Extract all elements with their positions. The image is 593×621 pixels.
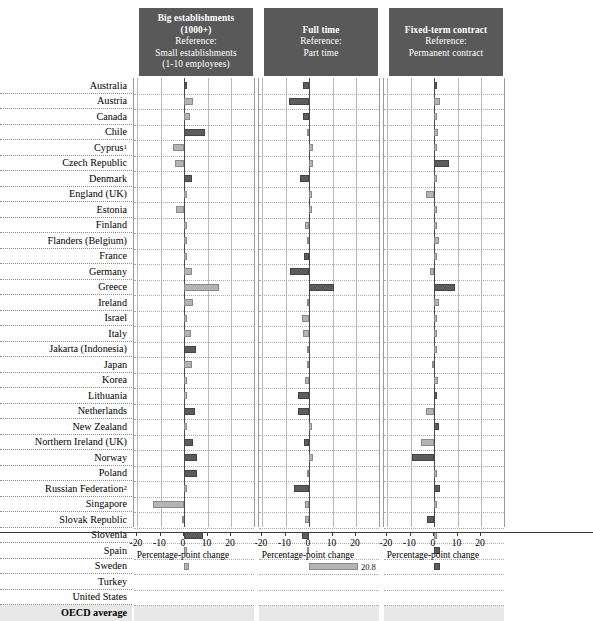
bar: [184, 392, 187, 399]
axis-tick: [136, 532, 137, 536]
row-separator: [134, 497, 254, 498]
oecd-average-band: [384, 605, 504, 621]
row-separator: [134, 202, 254, 203]
category-label: Cyprus1: [0, 140, 132, 156]
row-separator: [259, 156, 379, 157]
row-separator: [259, 264, 379, 265]
bar: [184, 268, 192, 275]
category-label: Czech Republic: [0, 156, 132, 172]
row-separator: [384, 528, 504, 529]
axis-tick: [457, 532, 458, 536]
panel-big-establishments: [133, 78, 255, 527]
bar: [434, 206, 437, 213]
row-separator: [259, 435, 379, 436]
bar: [434, 175, 437, 182]
bar: [434, 470, 437, 477]
row-separator: [384, 249, 504, 250]
bar-value-label: 20.8: [361, 562, 376, 572]
row-separator: [259, 295, 379, 296]
category-label: Jakarta (Indonesia): [0, 342, 132, 358]
bar: [309, 191, 312, 198]
row-separator: [134, 419, 254, 420]
bar: [294, 485, 309, 492]
row-separator: [259, 171, 379, 172]
bar: [434, 299, 439, 306]
axis-tick: [207, 532, 208, 536]
category-label: Slovenia: [0, 528, 132, 544]
bar: [184, 175, 192, 182]
bar: [305, 377, 309, 384]
row-separator: [134, 109, 254, 110]
bar: [307, 299, 310, 306]
panel-header-line: (1-10 employees): [162, 59, 229, 70]
bar: [434, 82, 437, 89]
row-separator: [259, 605, 379, 606]
axis-tick: [285, 532, 286, 536]
row-separator: [384, 342, 504, 343]
bar: [309, 284, 334, 291]
row-separator: [134, 466, 254, 467]
category-label: Flanders (Belgium): [0, 233, 132, 249]
category-label: Singapore: [0, 497, 132, 513]
row-separator: [134, 125, 254, 126]
bar: [184, 485, 187, 492]
category-label: England (UK): [0, 187, 132, 203]
row-separator: [259, 481, 379, 482]
bar: [434, 346, 437, 353]
row-separator: [259, 326, 379, 327]
bar: [430, 268, 434, 275]
bar: [434, 253, 437, 260]
bar: [184, 423, 187, 430]
row-separator: [259, 450, 379, 451]
panel-header-line: (1000+): [180, 25, 211, 36]
category-label: Israel: [0, 311, 132, 327]
bar: [304, 253, 309, 260]
bar: [309, 423, 312, 430]
row-separator: [259, 512, 379, 513]
row-separator: [384, 419, 504, 420]
bar: [309, 454, 313, 461]
bar: [305, 501, 309, 508]
bar: [309, 160, 313, 167]
category-label: Norway: [0, 450, 132, 466]
bar: [153, 501, 184, 508]
row-separator: [384, 187, 504, 188]
row-separator: [259, 140, 379, 141]
row-separator: [134, 311, 254, 312]
panel-header-line: Reference:: [425, 36, 467, 47]
row-separator: [134, 574, 254, 575]
row-separator: [134, 156, 254, 157]
bar: [184, 454, 197, 461]
row-separator: [259, 497, 379, 498]
category-label: Chile: [0, 125, 132, 141]
row-separator: [384, 233, 504, 234]
axis-tick: [480, 532, 481, 536]
bar: [434, 160, 449, 167]
axis-tick: [386, 532, 387, 536]
bar: [434, 144, 437, 151]
bar: [434, 377, 438, 384]
gridline: [356, 78, 357, 527]
row-separator: [134, 435, 254, 436]
bar: [184, 299, 193, 306]
footnote-marker: 2: [124, 484, 128, 492]
row-separator: [134, 528, 254, 529]
gridline: [231, 78, 232, 527]
panel-header-line: Small establishments: [155, 48, 236, 59]
row-separator: [384, 171, 504, 172]
row-separator: [259, 574, 379, 575]
bar: [184, 253, 187, 260]
row-separator: [384, 109, 504, 110]
axis-tick: [433, 532, 434, 536]
category-label: Italy: [0, 326, 132, 342]
category-label: Germany: [0, 264, 132, 280]
row-separator: [384, 202, 504, 203]
gridline: [333, 78, 334, 527]
row-separator: [259, 109, 379, 110]
row-separator: [384, 590, 504, 591]
category-label: Turkey: [0, 574, 132, 590]
bar: [427, 516, 434, 523]
row-separator: [134, 342, 254, 343]
bar: [184, 82, 187, 89]
bar: [184, 98, 193, 105]
